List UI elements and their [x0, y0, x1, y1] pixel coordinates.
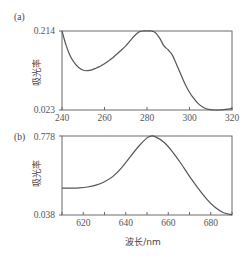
panel-b-ymax-label: 0.778 — [34, 132, 56, 142]
panel-b-x-tick-labels: 620640660680 — [76, 218, 218, 228]
x-tick-label: 260 — [97, 113, 112, 123]
x-tick-label: 320 — [225, 113, 240, 123]
panel-a-label: (a) — [14, 12, 25, 23]
panel-a-ymin-label: 0.023 — [34, 105, 56, 115]
panel-b-xlabel: 波长/nm — [125, 236, 161, 247]
x-tick-label: 660 — [161, 218, 176, 228]
x-tick-label: 280 — [140, 113, 155, 123]
figure: (a) 0.214 0.023 吸光率 240260280300320 (b) … — [0, 0, 249, 259]
x-tick-label: 240 — [55, 113, 70, 123]
panel-b-label: (b) — [14, 132, 25, 143]
panel-b-ylabel: 吸光率 — [31, 160, 42, 187]
x-tick-label: 620 — [76, 218, 91, 228]
x-tick-label: 680 — [204, 218, 219, 228]
panel-a: (a) 0.214 0.023 吸光率 240260280300320 — [14, 12, 239, 123]
panel-b-x-ticks — [59, 136, 232, 215]
panel-b-ymin-label: 0.038 — [34, 210, 56, 220]
panel-a-ymax-label: 0.214 — [34, 26, 56, 36]
panel-a-curve — [62, 31, 232, 110]
panel-b-curve — [62, 136, 232, 215]
x-tick-label: 300 — [182, 113, 197, 123]
panel-a-x-tick-labels: 240260280300320 — [55, 113, 240, 123]
x-tick-label: 640 — [119, 218, 134, 228]
panel-b-frame — [62, 136, 232, 215]
panel-b: (b) 0.778 0.038 吸光率 620640660680 波长/nm — [14, 132, 232, 247]
panel-a-ylabel: 吸光率 — [31, 59, 42, 86]
